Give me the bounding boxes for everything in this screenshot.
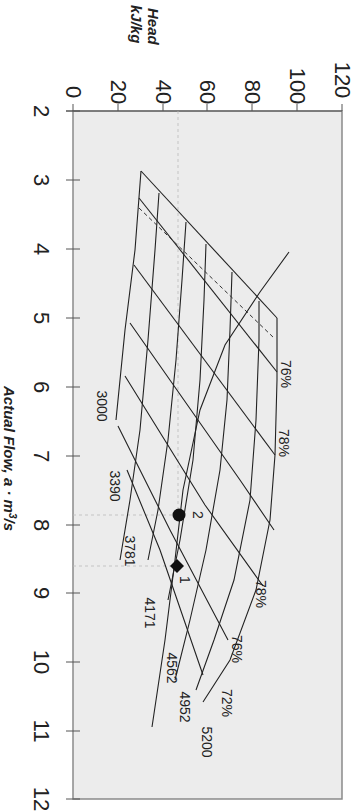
svg-text:2: 2 [29, 105, 54, 117]
head-axis-ticks [66, 104, 342, 111]
svg-text:7: 7 [29, 450, 54, 462]
head-axis-title: Head kJ/kg [128, 5, 162, 46]
svg-text:kJ/kg: kJ/kg [128, 5, 145, 43]
svg-text:3781: 3781 [122, 535, 138, 566]
svg-text:6: 6 [29, 381, 54, 393]
operating-point-2-label: 2 [190, 511, 206, 519]
svg-text:Actual Flow, a · m3/s: Actual Flow, a · m3/s [1, 385, 19, 531]
svg-text:60: 60 [195, 80, 220, 104]
operating-point-1-label: 1 [177, 576, 193, 584]
svg-text:78%: 78% [276, 429, 292, 457]
svg-text:3390: 3390 [107, 470, 123, 501]
svg-text:5: 5 [29, 312, 54, 324]
svg-text:12: 12 [29, 787, 54, 811]
compressor-map-chart: 0 20 40 60 80 100 120 Head kJ/kg 2 3 4 5… [0, 0, 358, 811]
svg-text:72%: 72% [219, 689, 235, 717]
svg-text:5200: 5200 [199, 726, 215, 757]
svg-text:76%: 76% [229, 635, 245, 663]
flow-axis-title: Actual Flow, a · m3/s [1, 385, 19, 531]
svg-text:3: 3 [29, 174, 54, 186]
svg-text:3000: 3000 [94, 390, 110, 421]
svg-text:78%: 78% [253, 580, 269, 608]
svg-text:4: 4 [29, 243, 54, 255]
svg-text:80: 80 [240, 80, 265, 104]
svg-text:4171: 4171 [142, 597, 158, 628]
svg-text:20: 20 [106, 80, 131, 104]
flow-axis-labels: 2 3 4 5 6 7 8 9 10 11 12 [29, 105, 54, 811]
svg-text:76%: 76% [278, 360, 294, 388]
svg-text:9: 9 [29, 587, 54, 599]
svg-text:4562: 4562 [164, 652, 180, 683]
svg-text:100: 100 [285, 68, 310, 105]
svg-text:120: 120 [330, 62, 355, 99]
svg-text:11: 11 [29, 720, 54, 743]
svg-text:8: 8 [29, 519, 54, 531]
svg-text:Head: Head [145, 8, 162, 46]
svg-text:4952: 4952 [177, 691, 193, 722]
svg-text:0: 0 [61, 86, 86, 98]
head-axis-labels: 0 20 40 60 80 100 120 [61, 62, 355, 105]
svg-text:40: 40 [151, 80, 176, 104]
operating-point-2-marker [173, 509, 186, 522]
svg-text:10: 10 [29, 650, 54, 674]
